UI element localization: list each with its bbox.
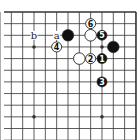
black-stone-5: 5 (97, 30, 107, 40)
white-stone (74, 53, 86, 65)
go-board-diagram: ba 654213 (0, 0, 140, 140)
stone-number: 6 (88, 20, 94, 29)
black-stone-3: 3 (97, 77, 107, 87)
white-stone-2: 2 (86, 54, 96, 64)
star-point (32, 115, 36, 119)
stones: 654213 (52, 19, 119, 87)
stone-number: 3 (99, 78, 105, 87)
stone-number: 4 (54, 43, 60, 52)
stone-number: 1 (99, 55, 105, 64)
black-stone-1: 1 (97, 54, 107, 64)
white-stone-6: 6 (86, 19, 96, 29)
star-point (32, 45, 36, 49)
white-stone-4: 4 (52, 42, 62, 52)
star-point (100, 115, 104, 119)
black-stone (108, 41, 120, 53)
mark-b: b (31, 30, 37, 41)
stone-number: 2 (88, 55, 94, 64)
mark-a: a (54, 30, 60, 41)
white-stone (85, 30, 97, 42)
black-stone (62, 30, 74, 42)
stone-number: 5 (99, 31, 105, 40)
star-point (100, 45, 104, 49)
